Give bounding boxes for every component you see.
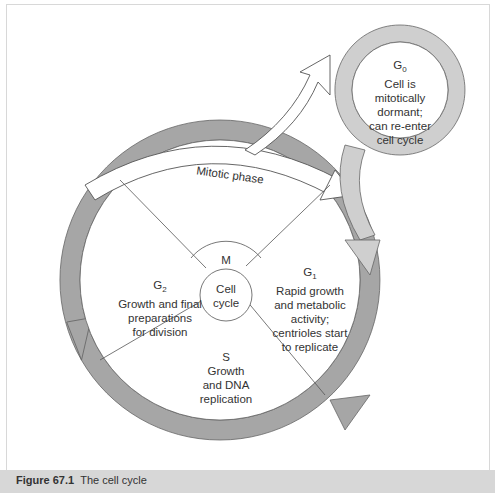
s-line: replication (176, 392, 276, 406)
figure-caption: Figure 67.1 The cell cycle (16, 474, 147, 486)
s-line: Growth (176, 364, 276, 378)
g0-title: G0 (350, 58, 450, 77)
g1-label: G1 Rapid growth and metabolic activity; … (255, 265, 365, 354)
g1-line: and metabolic (255, 298, 365, 312)
g1-line: activity; (255, 312, 365, 326)
figure-title: The cell cycle (80, 474, 147, 486)
g0-label: G0 Cell is mitotically dormant; can re-e… (350, 58, 450, 147)
s-title: S (176, 350, 276, 364)
g0-line: mitotically (350, 91, 450, 105)
m-label: M (196, 253, 256, 267)
g2-line: Growth and final (105, 297, 215, 311)
g2-line: for division (105, 325, 215, 339)
g0-line: Cell is (350, 77, 450, 91)
g1-title: G1 (255, 265, 365, 284)
g1-line: centrioles start (255, 326, 365, 340)
s-line: and DNA (176, 378, 276, 392)
g2-label: G2 Growth and final preparations for div… (105, 278, 215, 339)
g2-title: G2 (105, 278, 215, 297)
s-label: S Growth and DNA replication (176, 350, 276, 406)
figure-number: Figure 67.1 (16, 474, 74, 486)
g2-line: preparations (105, 311, 215, 325)
g0-line: cell cycle (350, 133, 450, 147)
g1-line: Rapid growth (255, 284, 365, 298)
g0-line: can re-enter (350, 119, 450, 133)
g0-line: dormant; (350, 105, 450, 119)
